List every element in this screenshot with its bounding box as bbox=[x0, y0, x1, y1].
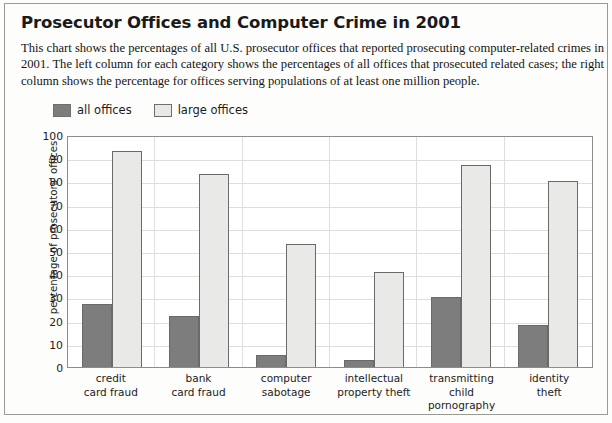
x-axis-tick-label: intellectualproperty theft bbox=[330, 372, 418, 413]
x-axis-tick-label: creditcard fraud bbox=[67, 372, 155, 413]
legend-item-all-offices: all offices bbox=[53, 103, 132, 117]
y-axis-tick-label: 30 bbox=[49, 292, 63, 305]
plot-area bbox=[67, 136, 593, 368]
bar bbox=[199, 174, 229, 367]
plot-wrapper: percentage of prosecutors' offices 01020… bbox=[25, 130, 597, 408]
x-axis-tick-label: transmittingchild pornography bbox=[418, 372, 506, 413]
y-axis-tick-label: 90 bbox=[49, 153, 63, 166]
bars-layer bbox=[68, 137, 592, 367]
x-axis-tick-label: bankcard fraud bbox=[155, 372, 243, 413]
bar-group bbox=[243, 137, 330, 367]
bar bbox=[344, 360, 374, 367]
bar-group bbox=[155, 137, 242, 367]
bar-group bbox=[505, 137, 592, 367]
chart-page: Prosecutor Offices and Computer Crime in… bbox=[0, 0, 612, 423]
y-axis-tick-label: 10 bbox=[49, 338, 63, 351]
y-axis-tick-label: 60 bbox=[49, 222, 63, 235]
chart-description: This chart shows the percentages of all … bbox=[21, 40, 604, 89]
x-axis-labels: creditcard fraudbankcard fraudcomputersa… bbox=[67, 372, 593, 413]
legend-swatch-icon bbox=[53, 104, 71, 117]
y-axis-tick-label: 0 bbox=[56, 362, 63, 375]
bar bbox=[256, 355, 286, 367]
bar bbox=[374, 272, 404, 367]
bar bbox=[169, 316, 199, 367]
y-axis-tick-label: 50 bbox=[49, 246, 63, 259]
y-axis-ticks: 0102030405060708090100 bbox=[39, 130, 63, 362]
y-axis-tick-label: 20 bbox=[49, 315, 63, 328]
y-axis-tick-label: 70 bbox=[49, 199, 63, 212]
y-axis-tick-label: 100 bbox=[42, 130, 63, 143]
y-axis-tick-label: 40 bbox=[49, 269, 63, 282]
bar-group bbox=[417, 137, 504, 367]
chart-legend: all offices large offices bbox=[53, 102, 260, 118]
bar-group bbox=[330, 137, 417, 367]
bar bbox=[548, 181, 578, 367]
bar bbox=[82, 304, 112, 367]
legend-item-large-offices: large offices bbox=[154, 103, 248, 117]
y-axis-tick-label: 80 bbox=[49, 176, 63, 189]
legend-swatch-icon bbox=[154, 104, 172, 117]
bar bbox=[112, 151, 142, 367]
bar bbox=[431, 297, 461, 367]
bar bbox=[286, 244, 316, 367]
x-axis-tick-label: identitytheft bbox=[505, 372, 593, 413]
bar bbox=[518, 325, 548, 367]
legend-label: large offices bbox=[178, 103, 248, 117]
chart-frame: Prosecutor Offices and Computer Crime in… bbox=[4, 3, 608, 415]
page-title: Prosecutor Offices and Computer Crime in… bbox=[21, 13, 461, 32]
bar-group bbox=[68, 137, 155, 367]
bar bbox=[461, 165, 491, 367]
x-axis-tick-label: computersabotage bbox=[242, 372, 330, 413]
legend-label: all offices bbox=[77, 103, 132, 117]
